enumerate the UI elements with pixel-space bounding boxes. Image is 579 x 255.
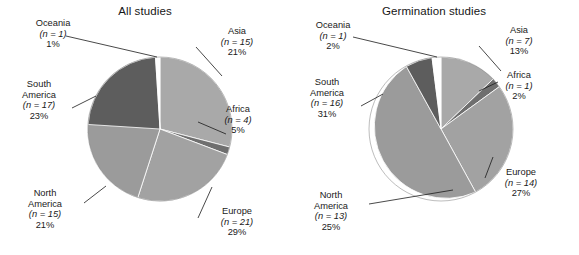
pie-label-south-america-pct: 31% bbox=[295, 109, 359, 120]
pie-chart-figure: All studies bbox=[0, 0, 579, 255]
pie-label-africa-name: Africa bbox=[206, 104, 270, 115]
pie-label-asia-name: Asia bbox=[487, 25, 551, 36]
pie-label-north-america-count: (n = 15) bbox=[14, 209, 76, 220]
pie-label-asia-count: (n = 15) bbox=[204, 37, 270, 48]
pie-label-north-america-count: (n = 13) bbox=[299, 211, 363, 222]
pie-label-africa-count: (n = 1) bbox=[487, 81, 551, 92]
pie-label-africa-pct: 2% bbox=[487, 91, 551, 102]
pie-label-north-america-name1: North bbox=[14, 188, 76, 199]
chart-panel-germination-studies: Germination studies bbox=[289, 0, 579, 255]
pie-label-south-america-count: (n = 16) bbox=[295, 98, 359, 109]
pie-label-south-america-pct: 23% bbox=[8, 111, 70, 122]
pie-label-europe: Europe (n = 14) 27% bbox=[489, 167, 553, 199]
pie-label-asia-pct: 13% bbox=[487, 46, 551, 57]
pie-label-north-america: North America (n = 13) 25% bbox=[299, 190, 363, 232]
pie-label-south-america-name1: South bbox=[8, 79, 70, 90]
pie-label-north-america-name2: America bbox=[14, 199, 76, 210]
pie-label-asia-count: (n = 7) bbox=[487, 36, 551, 47]
pie-label-europe-pct: 27% bbox=[489, 188, 553, 199]
pie-label-africa-name: Africa bbox=[487, 70, 551, 81]
pie-label-south-america: South America (n = 16) 31% bbox=[295, 77, 359, 119]
pie-label-asia-pct: 21% bbox=[204, 47, 270, 58]
pie-label-north-america-pct: 21% bbox=[14, 220, 76, 231]
pie-label-oceania-name: Oceania bbox=[301, 20, 365, 31]
pie-label-africa-pct: 5% bbox=[206, 125, 270, 136]
pie-slice-south-america[interactable] bbox=[88, 57, 160, 129]
pie-label-north-america-name2: America bbox=[299, 201, 363, 212]
leader-line-north-america bbox=[84, 186, 106, 203]
pie-label-oceania-name: Oceania bbox=[22, 18, 84, 29]
pie-label-oceania: Oceania (n = 1) 2% bbox=[301, 20, 365, 52]
pie-label-asia: Asia (n = 15) 21% bbox=[204, 26, 270, 58]
pie-label-asia-name: Asia bbox=[204, 26, 270, 37]
pie-label-europe: Europe (n = 21) 29% bbox=[204, 206, 270, 238]
pie-label-south-america: South America (n = 17) 23% bbox=[8, 79, 70, 121]
pie-label-oceania-pct: 2% bbox=[301, 41, 365, 52]
pie-label-south-america-name2: America bbox=[8, 90, 70, 101]
chart-panel-all-studies: All studies bbox=[0, 0, 290, 255]
pie-label-oceania: Oceania (n = 1) 1% bbox=[22, 18, 84, 50]
pie-label-north-america-pct: 25% bbox=[299, 222, 363, 233]
pie-label-europe-count: (n = 14) bbox=[489, 178, 553, 189]
pie-label-south-america-name2: America bbox=[295, 88, 359, 99]
pie-label-africa: Africa (n = 1) 2% bbox=[487, 70, 551, 102]
pie-label-europe-count: (n = 21) bbox=[204, 217, 270, 228]
pie-label-europe-name: Europe bbox=[489, 167, 553, 178]
pie-label-europe-pct: 29% bbox=[204, 227, 270, 238]
pie-label-south-america-name1: South bbox=[295, 77, 359, 88]
pie-label-south-america-count: (n = 17) bbox=[8, 100, 70, 111]
leader-line-oceania bbox=[353, 37, 437, 57]
pie-label-africa-count: (n = 4) bbox=[206, 115, 270, 126]
pie-label-africa: Africa (n = 4) 5% bbox=[206, 104, 270, 136]
pie-label-europe-name: Europe bbox=[204, 206, 270, 217]
pie-label-oceania-count: (n = 1) bbox=[301, 31, 365, 42]
pie-label-north-america-name1: North bbox=[299, 190, 363, 201]
pie-label-oceania-count: (n = 1) bbox=[22, 29, 84, 40]
pie-label-asia: Asia (n = 7) 13% bbox=[487, 25, 551, 57]
pie-label-north-america: North America (n = 15) 21% bbox=[14, 188, 76, 230]
pie-label-oceania-pct: 1% bbox=[22, 39, 84, 50]
